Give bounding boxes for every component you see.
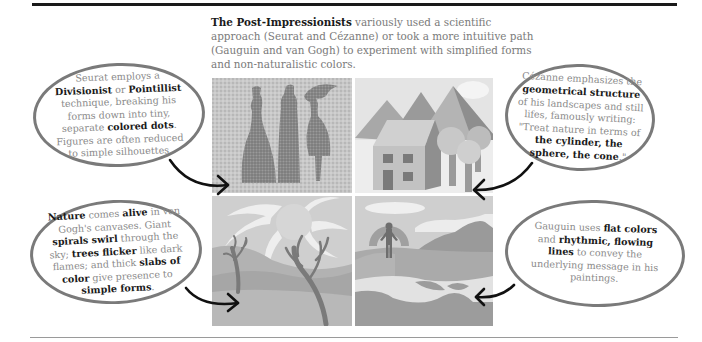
bottom-rule [30, 337, 678, 338]
arrow-to-cezanne-icon [474, 163, 532, 190]
callout-arrows [0, 0, 702, 342]
arrow-to-seurat-icon [170, 160, 228, 186]
